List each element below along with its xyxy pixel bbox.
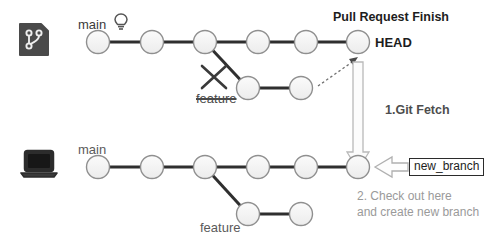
commit-node — [290, 77, 313, 100]
commit-node — [247, 31, 270, 54]
remote-main-branch-label: main — [78, 18, 106, 31]
commit-node — [290, 203, 313, 226]
commit-node — [237, 77, 260, 100]
git-workflow-diagram: main feature Pull Request Finish HEAD 1.… — [0, 0, 495, 246]
commit-node — [194, 31, 217, 54]
git-repository-icon — [18, 19, 50, 61]
git-fetch-arrow — [347, 62, 369, 170]
commit-node — [87, 156, 110, 179]
checkout-target-node — [347, 156, 370, 179]
pull-request-finish-label: Pull Request Finish — [333, 11, 449, 24]
local-main-branch-label: main — [78, 143, 106, 156]
local-feature-branch-label: feature — [200, 221, 240, 234]
commit-node — [141, 31, 164, 54]
commit-node — [87, 31, 110, 54]
head-commit-node — [347, 31, 370, 54]
laptop-icon — [19, 148, 59, 184]
head-label: HEAD — [375, 36, 412, 49]
step-1-git-fetch-label: 1.Git Fetch — [385, 104, 450, 117]
commit-node — [194, 156, 217, 179]
step-2-checkout-note: 2. Check out here and create new branch — [357, 188, 479, 220]
merge-dotted-arrow — [318, 57, 358, 86]
new-branch-tag[interactable]: new_branch — [409, 158, 484, 176]
new-branch-pointer-arrow — [375, 157, 408, 177]
commit-node — [141, 156, 164, 179]
commit-node — [295, 31, 318, 54]
step-2-line-1: 2. Check out here — [357, 188, 479, 204]
commit-node — [295, 156, 318, 179]
feature-deleted-x-icon — [202, 66, 226, 88]
commit-node — [247, 156, 270, 179]
remote-feature-branch-label: feature — [196, 92, 236, 105]
lightbulb-icon — [113, 12, 129, 36]
step-2-line-2: and create new branch — [357, 204, 479, 220]
